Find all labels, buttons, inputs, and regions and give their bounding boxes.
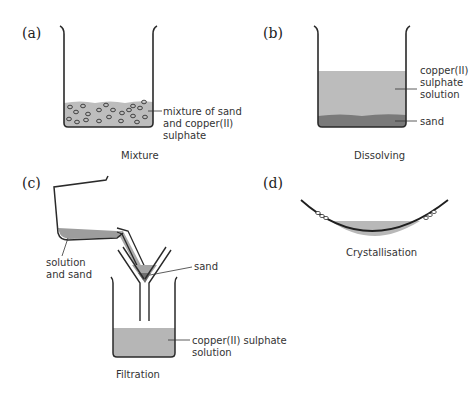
solution-fill bbox=[318, 71, 406, 116]
filter-funnel bbox=[118, 247, 171, 321]
panel-d: (d) Crystallisation bbox=[263, 175, 448, 258]
crystals bbox=[316, 210, 437, 219]
funnel-sand bbox=[138, 273, 151, 283]
panel-c: (c) solution and sand sand copper(II) su… bbox=[22, 175, 287, 380]
annotation-funnel-sand: sand bbox=[194, 261, 218, 272]
separation-diagram: (a) mixture of sand and copper(II) sulph… bbox=[0, 0, 474, 393]
annotation-mixture-1: mixture of sand bbox=[163, 106, 242, 117]
evaporating-solution bbox=[331, 221, 420, 236]
leader-line bbox=[62, 238, 68, 256]
caption-crystallisation: Crystallisation bbox=[346, 247, 417, 258]
annotation-solution-sand-2: and sand bbox=[46, 269, 92, 280]
annotation-solution-1: copper(II) bbox=[420, 65, 468, 76]
caption-dissolving: Dissolving bbox=[354, 150, 405, 161]
annotation-mixture-2: and copper(II) bbox=[163, 118, 233, 129]
annotation-filtrate-1: copper(II) sulphate bbox=[192, 335, 287, 346]
annotation-solution-sand-1: solution bbox=[46, 257, 86, 268]
panel-a-label: (a) bbox=[22, 25, 41, 41]
caption-mixture: Mixture bbox=[121, 150, 159, 161]
annotation-filtrate-2: solution bbox=[192, 347, 232, 358]
panel-a: (a) mixture of sand and copper(II) sulph… bbox=[22, 25, 242, 161]
sand-layer bbox=[318, 114, 406, 127]
panel-d-label: (d) bbox=[263, 175, 283, 191]
annotation-sand: sand bbox=[420, 116, 444, 127]
filtrate-fill bbox=[113, 328, 175, 357]
annotation-solution-3: solution bbox=[420, 89, 460, 100]
panel-b-label: (b) bbox=[263, 25, 283, 41]
panel-c-label: (c) bbox=[22, 175, 41, 191]
panel-b: (b) copper(II) sulphate solution sand Di… bbox=[263, 25, 468, 161]
caption-filtration: Filtration bbox=[116, 369, 160, 380]
annotation-solution-2: sulphate bbox=[420, 77, 463, 88]
annotation-mixture-3: sulphate bbox=[163, 130, 206, 141]
